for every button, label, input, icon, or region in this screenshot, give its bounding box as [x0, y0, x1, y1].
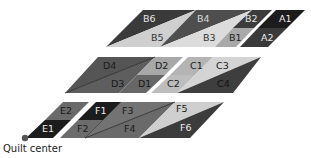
label-f2: F2 [77, 123, 89, 134]
label-c4: C4 [217, 78, 230, 89]
label-f3: F3 [122, 105, 134, 116]
label-b2: B2 [245, 13, 258, 24]
label-b4: B4 [197, 13, 210, 24]
quilt-piecing-diagram: B6 B5 B4 B3 B2 B1 A1 A2 D4 D3 D2 D1 [0, 0, 311, 158]
label-f6: F6 [180, 122, 192, 133]
label-b6: B6 [143, 13, 156, 24]
label-f5: F5 [176, 103, 188, 114]
label-b3: B3 [203, 32, 216, 43]
label-a2: A2 [261, 32, 274, 43]
label-e2: E2 [60, 105, 72, 116]
label-f1: F1 [95, 105, 107, 116]
label-b5: B5 [151, 32, 164, 43]
label-f4: F4 [124, 123, 136, 134]
strip-f: F1 F2 F3 F4 F5 F6 [60, 102, 224, 138]
label-d2: D2 [155, 60, 168, 71]
label-e1: E1 [42, 123, 54, 134]
quilt-center-dot [22, 135, 28, 141]
label-a1: A1 [279, 13, 292, 24]
quilt-center-label: Quilt center [3, 143, 62, 154]
label-d3: D3 [111, 78, 124, 89]
label-c1: C1 [190, 60, 203, 71]
label-d4: D4 [103, 60, 116, 71]
label-c3: C3 [216, 60, 229, 71]
label-c2: C2 [167, 78, 180, 89]
label-b1: B1 [229, 32, 242, 43]
label-d1: D1 [138, 78, 151, 89]
